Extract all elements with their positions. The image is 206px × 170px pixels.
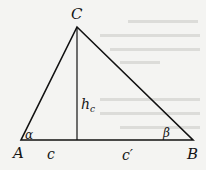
angle-alpha-label: α — [25, 129, 33, 141]
altitude-label-sub: c — [90, 104, 95, 114]
angle-beta-label: β — [163, 127, 170, 139]
altitude-label: hc — [81, 97, 95, 114]
vertex-label-a: A — [13, 146, 24, 161]
segment-label-c-prime: c′ — [122, 148, 133, 162]
triangle-svg — [0, 0, 206, 170]
triangle-diagram: C A B α β hc c c′ — [0, 0, 206, 170]
altitude-label-main: h — [81, 96, 90, 112]
vertex-label-c: C — [71, 7, 82, 22]
triangle-abc — [21, 27, 193, 140]
vertex-label-b: B — [187, 147, 198, 162]
segment-label-c: c — [47, 147, 55, 161]
